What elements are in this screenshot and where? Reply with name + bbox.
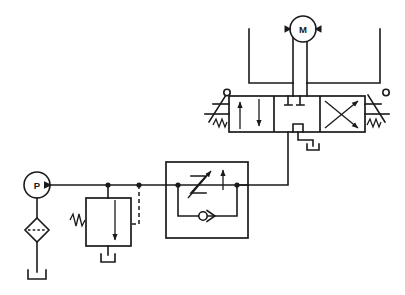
schematic-canvas: M — [0, 0, 405, 295]
pump-label: P — [34, 180, 41, 191]
junction-flowcontrol-outlet — [234, 182, 239, 187]
hydraulic-schematic-diagram: M — [0, 0, 405, 295]
canvas-background — [0, 0, 405, 295]
junction-flowcontrol-inlet — [175, 182, 180, 187]
lever-right-knob — [383, 89, 389, 95]
lever-left-knob — [224, 89, 230, 95]
check-valve-ball-icon — [199, 212, 207, 220]
motor-label: M — [299, 24, 307, 35]
